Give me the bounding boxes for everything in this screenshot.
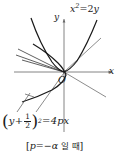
curve-label-upper-parabola: x2=2y [70,3,99,14]
equation-equals: = [42,116,50,126]
x-axis-label: x [109,67,114,76]
equation-leader-tick [25,94,34,97]
fraction-denominator: 2 [24,121,31,130]
equation-fraction: 12 [24,113,31,130]
origin-label: O [58,75,66,85]
curve-label-equals: =2 [80,3,94,14]
equation-label: (y+12)2=4px [2,113,69,130]
equation-rhs: 4px [51,116,69,126]
math-figure: x2=2y y x O (y+12)2=4px [p=−α 일 때] [0,0,122,160]
secant-line-lower-right [64,72,106,97]
equation-var-y: y [9,116,15,126]
y-axis-label: y [54,13,59,22]
curve-label-rhs: y [94,3,99,14]
left-opening-parabola-curve [22,44,66,102]
equation-leader-line [17,93,30,112]
condition-close-bracket: ] [80,140,84,151]
condition-minus: − [44,140,52,151]
fraction-numerator: 1 [24,113,31,121]
secant-line-upper-left-mid [16,55,64,72]
equation-plus: + [15,116,23,126]
condition-equals: = [36,140,44,151]
condition-label: [p=−α 일 때] [26,141,83,151]
secant-line-upper-right [64,38,101,72]
condition-korean-text: 일 때 [58,141,79,151]
equation-open-paren: ( [2,114,9,128]
y-axis-arrow-icon [63,19,66,23]
